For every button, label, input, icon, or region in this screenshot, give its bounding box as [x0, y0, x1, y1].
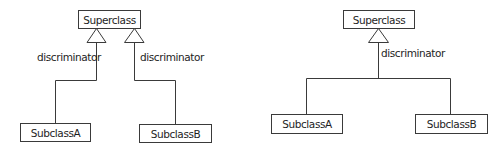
left-subclass-b-node: SubclassB [140, 125, 212, 143]
right-diagram: Superclass discriminator SubclassA Subcl… [272, 11, 488, 134]
left-superclass-label: Superclass [83, 14, 136, 26]
right-subclass-a-node: SubclassA [272, 115, 343, 134]
right-discriminator-label: discriminator [381, 47, 446, 59]
left-diagram: Superclass discriminator discriminator S… [21, 11, 212, 143]
generalization-triangle-icon [87, 29, 106, 43]
left-discriminator-b-label: discriminator [140, 51, 205, 63]
right-superclass-label: Superclass [353, 14, 406, 26]
right-generalization-tree: discriminator [307, 29, 451, 115]
generalization-triangle-icon [125, 29, 145, 43]
uml-generalization-figure: Superclass discriminator discriminator S… [0, 0, 497, 152]
left-generalization-a: discriminator [37, 29, 106, 124]
left-subclass-b-label: SubclassB [151, 128, 201, 140]
left-subclass-a-label: SubclassA [31, 127, 82, 139]
right-subclass-b-node: SubclassB [416, 115, 488, 134]
left-generalization-b: discriminator [125, 29, 206, 125]
left-discriminator-a-label: discriminator [37, 51, 102, 63]
right-superclass-node: Superclass [344, 11, 415, 29]
right-subclass-a-label: SubclassA [282, 118, 333, 130]
left-superclass-node: Superclass [79, 11, 141, 29]
left-subclass-a-node: SubclassA [21, 124, 91, 142]
generalization-triangle-icon [369, 29, 389, 43]
right-subclass-b-label: SubclassB [427, 118, 477, 130]
